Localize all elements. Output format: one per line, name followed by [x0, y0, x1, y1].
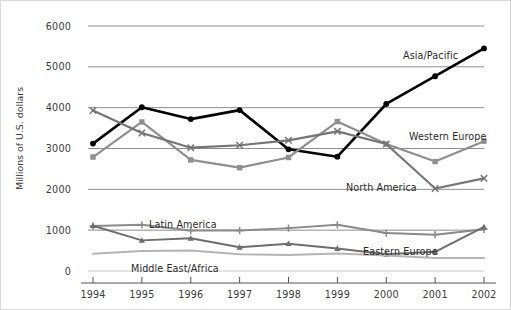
x-tick-label-1999: 1999	[325, 289, 350, 300]
data-point	[481, 224, 487, 230]
series-label-latin-america: Latin America	[149, 219, 217, 230]
series-label-asia-pacific: Asia/Pacific	[403, 50, 458, 61]
series-line	[93, 122, 484, 168]
series-label-western-europe: Western Europe	[409, 131, 487, 142]
x-tick-label-1996: 1996	[178, 289, 203, 300]
x-tick-label-1998: 1998	[276, 289, 301, 300]
data-point	[90, 141, 96, 147]
data-point	[188, 116, 194, 122]
series-western-europe	[90, 119, 486, 171]
data-point	[335, 119, 340, 124]
data-point	[334, 154, 340, 160]
data-point	[90, 154, 95, 159]
data-point	[286, 155, 291, 160]
data-point	[188, 157, 193, 162]
x-tick-label-1997: 1997	[227, 289, 252, 300]
x-tick-label-2002: 2002	[471, 289, 496, 300]
series-label-north-america: North America	[346, 182, 417, 193]
data-point	[383, 101, 389, 107]
x-axis	[81, 277, 496, 283]
series-label-eastern-europe: Eastern Europe	[363, 246, 438, 257]
chart-container: 6000 5000 4000 3000 2000 1000 0 Millions…	[0, 0, 511, 310]
series-label-middle-east-africa: Middle East/Africa	[131, 263, 219, 274]
chart-plot-area	[1, 1, 511, 310]
data-point	[139, 119, 144, 124]
data-point	[286, 146, 292, 152]
x-tick-label-2001: 2001	[423, 289, 448, 300]
data-point	[481, 46, 487, 52]
x-tick-label-2000: 2000	[374, 289, 399, 300]
data-point	[237, 165, 242, 170]
x-tick-label-1995: 1995	[129, 289, 154, 300]
data-point	[139, 104, 145, 110]
series-asia-pacific	[90, 46, 487, 160]
data-point	[432, 159, 437, 164]
data-point	[432, 73, 438, 79]
x-tick-label-1994: 1994	[80, 289, 105, 300]
data-point	[237, 107, 243, 113]
